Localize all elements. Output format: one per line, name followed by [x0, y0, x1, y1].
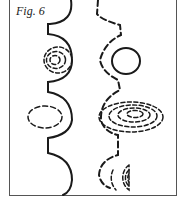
right-concentric-ellipses — [99, 102, 163, 132]
left-dashed-ellipse — [28, 106, 62, 128]
right-concentric-semicircles — [111, 165, 129, 190]
right-solid-circle — [112, 48, 140, 74]
right-dashed-wave — [97, 0, 121, 188]
figure-drawing — [0, 0, 187, 208]
left-solid-wave — [48, 0, 72, 195]
left-concentric-ellipses — [44, 47, 72, 73]
